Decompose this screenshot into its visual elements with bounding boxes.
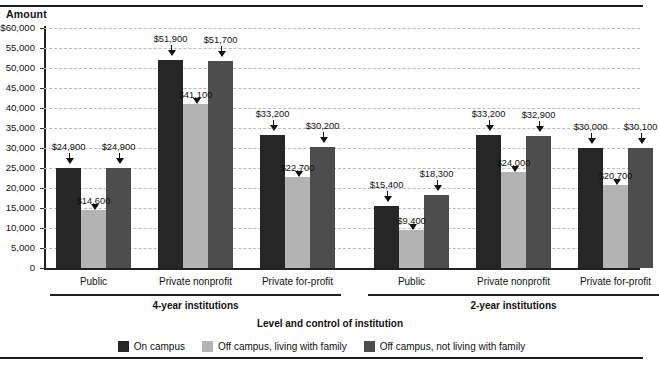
legend-swatch-icon: [364, 341, 375, 352]
y-axis-tick-mark: [40, 148, 44, 149]
bar-value-label: $18,300: [420, 169, 454, 179]
bar-value-label: $24,000: [497, 158, 531, 168]
y-axis-tick-label: 15,000: [0, 202, 40, 213]
y-axis-tick-label: 35,000: [0, 122, 40, 133]
bar: [628, 148, 653, 268]
callout-arrow: [591, 133, 592, 143]
callout-arrow: [119, 153, 120, 163]
bar: [285, 177, 310, 268]
y-axis-tick-label: 40,000: [0, 102, 40, 113]
legend-item: Off campus, not living with family: [364, 341, 525, 352]
x-axis-category-label: Private nonprofit: [159, 276, 232, 287]
bar: [81, 210, 106, 268]
x-axis-line: [44, 268, 640, 270]
y-axis-tick-label: $60,000: [0, 22, 40, 33]
bar: [603, 185, 628, 268]
y-axis-tick-mark: [40, 108, 44, 109]
x-axis-category-label: Public: [80, 276, 107, 287]
legend-swatch-icon: [202, 341, 213, 352]
y-axis-tick-mark: [40, 248, 44, 249]
x-axis-category-label: Private nonprofit: [477, 276, 550, 287]
plot-area: $24,900$51,900$33,200$15,400$33,200$30,0…: [44, 28, 640, 268]
gridline: [44, 108, 640, 109]
callout-arrow: [514, 169, 515, 171]
bar-value-label: $51,900: [154, 34, 188, 44]
legend-item: Off campus, living with family: [202, 341, 347, 352]
y-axis-tick-label: 5,000: [0, 242, 40, 253]
callout-arrow: [489, 120, 490, 130]
legend-item: On campus: [118, 341, 185, 352]
bar-value-label: $24,900: [52, 142, 86, 152]
callout-arrow: [171, 45, 172, 55]
x-axis-category-label: Private for-profit: [262, 276, 333, 287]
callout-arrow: [298, 174, 299, 176]
y-axis-tick-mark: [40, 88, 44, 89]
bar: [526, 136, 551, 268]
x-axis-title: Level and control of institution: [257, 318, 403, 329]
group-underline: [368, 294, 659, 296]
bar-value-label: $30,100: [624, 122, 658, 132]
bar-value-label: $41,100: [179, 90, 213, 100]
callout-arrow: [437, 180, 438, 190]
bar-value-label: $30,200: [306, 121, 340, 131]
callout-arrow: [616, 182, 617, 184]
bar: [424, 195, 449, 268]
bar-value-label: $33,200: [256, 109, 290, 119]
y-axis-tick-label: 10,000: [0, 222, 40, 233]
bar-value-label: $22,700: [281, 163, 315, 173]
top-divider-rule: [0, 5, 643, 7]
y-axis-tick-mark: [40, 48, 44, 49]
y-axis-title: Amount: [6, 8, 47, 20]
callout-arrow: [94, 207, 95, 209]
y-axis-tick-label: 45,000: [0, 82, 40, 93]
callout-arrow: [539, 121, 540, 131]
bar: [578, 148, 603, 268]
bar-value-label: $30,000: [574, 122, 608, 132]
bar-value-label: $32,900: [522, 110, 556, 120]
bar: [183, 104, 208, 268]
bar-value-label: $20,700: [599, 171, 633, 181]
legend-label: Off campus, living with family: [218, 341, 347, 352]
gridline: [44, 28, 640, 29]
y-axis-tick-label: 20,000: [0, 182, 40, 193]
gridline: [44, 48, 640, 49]
gridline: [44, 128, 640, 129]
y-axis-tick-mark: [40, 68, 44, 69]
bar-value-label: $14,600: [77, 196, 111, 206]
y-axis-tick-mark: [40, 268, 44, 269]
bar-value-label: $33,200: [472, 109, 506, 119]
y-axis-tick-mark: [40, 128, 44, 129]
bottom-divider-rule: [0, 357, 643, 359]
bar-value-label: $24,900: [102, 142, 136, 152]
bar-value-label: $15,400: [370, 180, 404, 190]
bar: [399, 230, 424, 268]
callout-arrow: [273, 120, 274, 130]
y-axis-tick-label: 30,000: [0, 142, 40, 153]
gridline: [44, 88, 640, 89]
bar: [56, 168, 81, 268]
y-axis-tick-label: 55,000: [0, 42, 40, 53]
x-axis-category-label: Public: [398, 276, 425, 287]
callout-arrow: [69, 153, 70, 163]
y-axis-tick-label: 0: [0, 262, 40, 273]
bar: [476, 135, 501, 268]
group-label: 2-year institutions: [470, 300, 556, 311]
callout-arrow: [387, 191, 388, 201]
legend-label: On campus: [134, 341, 185, 352]
y-axis-tick-mark: [40, 208, 44, 209]
y-axis-tick-mark: [40, 188, 44, 189]
gridline: [44, 68, 640, 69]
y-axis-tick-mark: [40, 28, 44, 29]
callout-arrow: [221, 46, 222, 56]
legend-label: Off campus, not living with family: [380, 341, 525, 352]
chart-legend: On campusOff campus, living with familyO…: [0, 341, 643, 352]
callout-arrow: [323, 132, 324, 142]
group-label: 4-year institutions: [152, 300, 238, 311]
bar: [106, 168, 131, 268]
bar: [501, 172, 526, 268]
y-axis-tick-label: 50,000: [0, 62, 40, 73]
group-underline: [50, 294, 341, 296]
y-axis-tick-mark: [40, 228, 44, 229]
y-axis-tick-label: 25,000: [0, 162, 40, 173]
